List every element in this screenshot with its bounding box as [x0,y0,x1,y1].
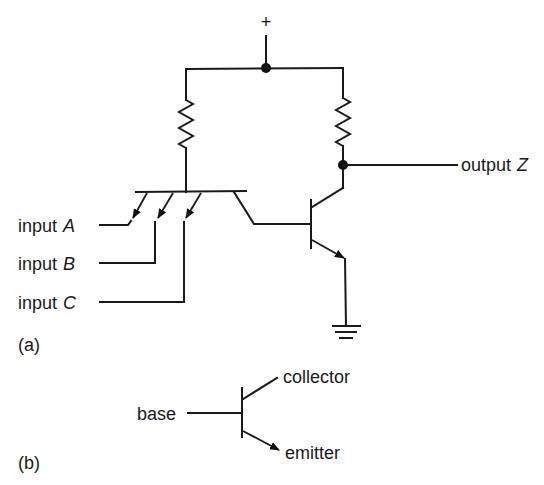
input-a-wire [100,221,131,225]
transistor-symbol-icon [188,378,279,450]
base-label: base [137,404,176,424]
panel-a: + outputZ [18,12,529,355]
output-transistor-icon [311,188,346,326]
ground-icon [333,326,360,338]
multi-emitter-transistor-icon [133,191,311,224]
panel-a-label: (a) [18,335,40,355]
top-rail-wire [186,68,343,69]
input-a-label: inputA [18,216,75,236]
panel-b-label: (b) [18,453,40,473]
output-z-label: outputZ [461,155,529,175]
circuit-diagram: + outputZ [0,0,544,485]
panel-b: base collector emitter (b) [18,367,350,473]
resistor-left-icon [179,69,193,192]
collector-label: collector [283,367,350,387]
input-c-label: inputC [18,293,77,313]
input-b-label: inputB [18,254,75,274]
supply-plus-label: + [261,12,272,32]
input-b-wire [100,222,155,263]
emitter-label: emitter [285,443,340,463]
